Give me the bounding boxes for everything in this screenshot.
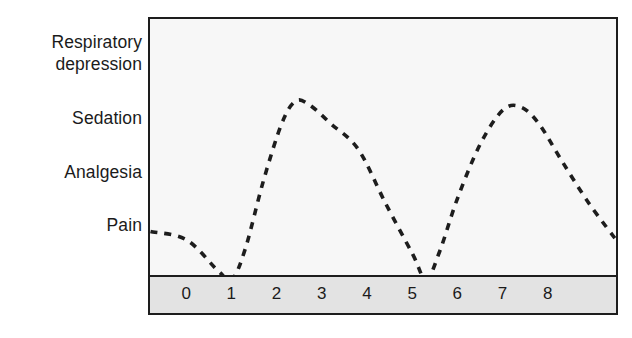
x-axis-tick-3: 3 <box>310 284 334 304</box>
y-axis-label-sedation: Sedation <box>0 107 142 129</box>
drug-effect-curve-svg <box>148 17 618 277</box>
x-axis-tick-2: 2 <box>265 284 289 304</box>
x-axis-tick-strip: 0 1 2 3 4 5 6 7 8 <box>148 277 618 315</box>
y-axis-label-analgesia: Analgesia <box>0 161 142 183</box>
drug-effect-chart: Respiratory depression Sedation Analgesi… <box>0 0 632 338</box>
y-axis-label-pain: Pain <box>0 214 142 236</box>
drug-effect-dashed-curve <box>150 99 618 277</box>
y-axis-category-labels: Respiratory depression Sedation Analgesi… <box>0 0 142 338</box>
x-axis-tick-1: 1 <box>219 284 243 304</box>
x-axis-tick-5: 5 <box>400 284 424 304</box>
plot-area <box>148 17 618 277</box>
x-axis-tick-4: 4 <box>355 284 379 304</box>
x-axis-tick-0: 0 <box>174 284 198 304</box>
x-axis-tick-7: 7 <box>491 284 515 304</box>
x-axis-tick-6: 6 <box>445 284 469 304</box>
x-axis-tick-8: 8 <box>536 284 560 304</box>
y-axis-label-respiratory-depression: Respiratory depression <box>0 31 142 75</box>
